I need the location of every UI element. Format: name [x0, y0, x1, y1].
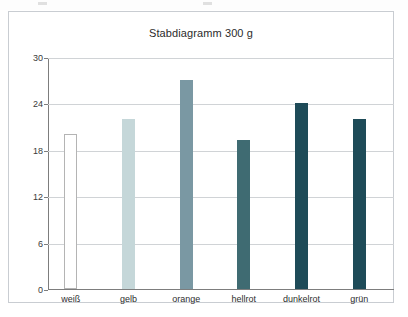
x-axis-label-dunkelrot: dunkelrot: [283, 294, 320, 304]
y-axis-tick: [44, 151, 48, 152]
y-axis-tick: [44, 290, 48, 291]
y-axis-tick: [44, 104, 48, 105]
bar-dunkelrot[interactable]: [295, 103, 308, 289]
y-axis-tick-label: 18: [33, 146, 43, 156]
scan-edge-artifacts: [0, 0, 408, 10]
chart-card: Stabdiagramm 300 g 0612182430 weißgelbor…: [8, 11, 394, 303]
bar-gelb[interactable]: [122, 119, 135, 289]
bar-weiß[interactable]: [64, 134, 77, 289]
bar-orange[interactable]: [180, 80, 193, 289]
x-axis-line: [48, 289, 394, 290]
plot-area: 0612182430: [48, 58, 394, 290]
bar-grün[interactable]: [353, 119, 366, 289]
y-axis-tick-label: 24: [33, 99, 43, 109]
gridline: [48, 197, 394, 198]
gridline: [48, 58, 394, 59]
y-axis-tick-label: 6: [38, 239, 43, 249]
gridline: [48, 104, 394, 105]
y-axis-line: [48, 58, 49, 290]
x-axis-label-orange: orange: [172, 294, 200, 304]
x-axis-label-weiß: weiß: [61, 294, 80, 304]
scan-smudge: [203, 2, 212, 5]
x-axis-label-grün: grün: [350, 294, 368, 304]
y-axis-tick: [44, 197, 48, 198]
gridline: [48, 151, 394, 152]
x-axis-label-gelb: gelb: [120, 294, 137, 304]
gridline: [48, 244, 394, 245]
x-axis-label-hellrot: hellrot: [232, 294, 257, 304]
y-axis-tick-label: 0: [38, 285, 43, 295]
bar-hellrot[interactable]: [237, 140, 250, 289]
y-axis-tick-label: 30: [33, 53, 43, 63]
y-axis-tick-label: 12: [33, 192, 43, 202]
chart-title: Stabdiagramm 300 g: [9, 27, 393, 39]
y-axis-tick: [44, 58, 48, 59]
scan-smudge: [38, 2, 47, 5]
y-axis-tick: [44, 244, 48, 245]
